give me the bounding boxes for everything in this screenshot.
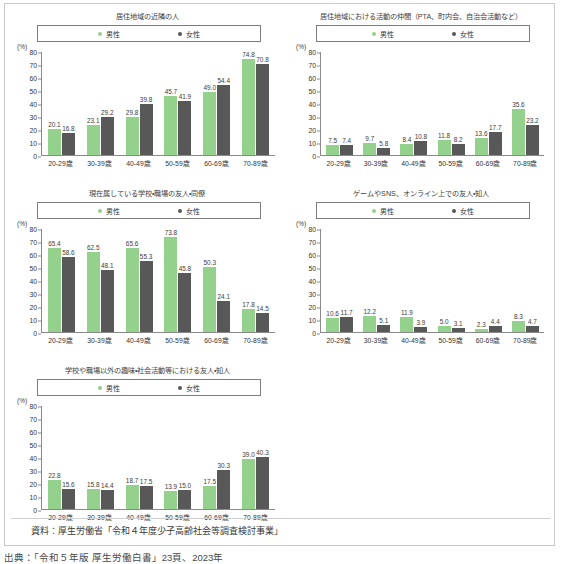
y-axis-tick: 50: [29, 442, 37, 449]
bar-group: 62.548.1: [81, 229, 120, 332]
bar-value-label: 45.7: [165, 88, 177, 96]
bar-value-label: 15.8: [87, 481, 99, 489]
bar-value-label: 40.3: [256, 449, 268, 457]
y-axis-tick: 60: [29, 429, 37, 436]
bar-male: 22.8: [48, 480, 61, 509]
bar-male: 65.4: [48, 248, 61, 332]
legend-item-female: 女性: [452, 206, 474, 216]
legend-item-male: 男性: [372, 206, 394, 216]
x-axis-label: 40-49歳: [395, 335, 432, 345]
plot-area: (%) 80706050403020100 20.116.823.129.229…: [11, 44, 283, 176]
source-row: 資料：厚生労働省「令和４年度少子高齢社会等調査検討事業」: [11, 518, 550, 541]
y-axis-tick: 40: [29, 455, 37, 462]
bar-group: 13.617.7: [470, 52, 507, 155]
bar-value-label: 29.8: [126, 109, 138, 117]
bar-value-label: 24.1: [217, 293, 229, 301]
bar-value-label: 8.3: [514, 313, 523, 321]
bar-value-label: 11.8: [438, 132, 450, 140]
bar-female: 41.9: [178, 101, 191, 155]
y-axis: 80706050403020100: [290, 229, 320, 333]
chart-panel-1: 居住地域の近隣の人 男性 女性 (%) 80706050403020100: [11, 8, 283, 182]
y-axis-tick: 60: [308, 252, 316, 259]
legend-swatch-male-icon: [372, 32, 376, 36]
bar-value-label: 11.9: [401, 309, 413, 317]
bar-group: 9.75.8: [358, 52, 395, 155]
chart-title: 現在属している学校・職場の友人・同僚: [11, 189, 283, 199]
bar-female: 16.8: [62, 133, 75, 155]
legend-item-female: 女性: [452, 29, 474, 39]
bar-male: 74.8: [242, 59, 255, 155]
bar-female: 24.1: [217, 301, 230, 332]
bar-value-label: 62.5: [87, 244, 99, 252]
x-axis-label: 30-39歳: [357, 335, 394, 345]
legend-item-female: 女性: [178, 383, 200, 393]
y-axis-tick: 10: [29, 494, 37, 501]
bar-value-label: 10.8: [415, 133, 427, 141]
bar-female: 45.8: [178, 273, 191, 332]
bar-female: 14.5: [256, 313, 269, 332]
bar-group: 73.845.8: [158, 229, 197, 332]
bar-value-label: 14.4: [101, 482, 113, 490]
bar-value-label: 5.1: [379, 317, 388, 325]
bar-value-label: 17.5: [203, 478, 215, 486]
bar-female: 15.6: [62, 489, 75, 509]
bar-value-label: 4.7: [528, 318, 537, 326]
bar-group: 35.623.2: [507, 52, 544, 155]
x-axis-label: 40-49歳: [119, 335, 158, 345]
bar-value-label: 7.5: [328, 137, 337, 145]
bar-female: 3.9: [414, 327, 427, 332]
chart-legend: 男性 女性: [37, 202, 261, 219]
y-axis-tick: 70: [29, 239, 37, 246]
bar-group: 11.93.9: [395, 229, 432, 332]
bar-value-label: 39.8: [140, 96, 152, 104]
bar-value-label: 3.9: [416, 319, 425, 327]
plot-area: (%) 80706050403020100 65.458.662.548.165…: [11, 221, 283, 353]
bar-female: 3.1: [452, 328, 465, 332]
y-axis-tick: 50: [29, 265, 37, 272]
bar-male: 13.9: [164, 491, 177, 509]
y-axis-tick: 70: [29, 62, 37, 69]
bar-group: 22.815.6: [42, 406, 81, 509]
bar-male: 8.4: [400, 144, 413, 155]
bar-value-label: 41.9: [179, 93, 191, 101]
legend-label-female: 女性: [460, 29, 474, 39]
y-axis-tick: 60: [29, 75, 37, 82]
bar-male: 62.5: [87, 252, 100, 332]
bar-value-label: 17.7: [489, 124, 501, 132]
figure-page: 居住地域の近隣の人 男性 女性 (%) 80706050403020100: [0, 0, 562, 564]
bar-value-label: 20.1: [48, 121, 60, 129]
bar-male: 20.1: [48, 129, 61, 155]
bar-male: 17.5: [203, 486, 216, 509]
legend-label-female: 女性: [460, 206, 474, 216]
bar-value-label: 74.8: [242, 51, 254, 59]
x-axis-label: 70-89歳: [236, 335, 275, 345]
bar-value-label: 9.7: [365, 135, 374, 143]
x-axis-label: 50-59歳: [432, 335, 469, 345]
bar-value-label: 49.0: [203, 84, 215, 92]
x-axis-label: 30-39歳: [80, 335, 119, 345]
bar-female: 30.3: [217, 470, 230, 509]
bar-female: 5.8: [377, 148, 390, 155]
bar-male: 50.3: [203, 267, 216, 332]
x-axis-label: 60-69歳: [197, 335, 236, 345]
y-axis-tick: 40: [308, 101, 316, 108]
bar-male: 39.0: [242, 459, 255, 509]
legend-item-male: 男性: [372, 29, 394, 39]
y-axis-tick: 30: [308, 291, 316, 298]
plot-canvas: 65.458.662.548.165.655.373.845.850.324.1…: [41, 229, 275, 333]
bar-male: 23.1: [87, 125, 100, 155]
bar-group: 17.530.3: [197, 406, 236, 509]
bar-male: 17.8: [242, 309, 255, 332]
chart-panel-3: 現在属している学校・職場の友人・同僚 男性 女性 (%) 80706050403…: [11, 185, 283, 359]
y-axis-tick: 20: [308, 127, 316, 134]
bar-groups: 20.116.823.129.229.839.845.741.949.054.4…: [42, 52, 275, 155]
y-axis-tick: 30: [29, 291, 37, 298]
y-axis-tick: 40: [29, 278, 37, 285]
bar-group: 10.611.7: [321, 229, 358, 332]
legend-item-male: 男性: [98, 29, 120, 39]
chart-title: 居住地域の近隣の人: [11, 12, 283, 22]
legend-label-male: 男性: [380, 29, 394, 39]
bar-group: 65.458.6: [42, 229, 81, 332]
figure-caption: 出典：「令和５年版 厚生労働白書」23頁、2023年: [4, 550, 223, 564]
bar-value-label: 17.5: [140, 478, 152, 486]
